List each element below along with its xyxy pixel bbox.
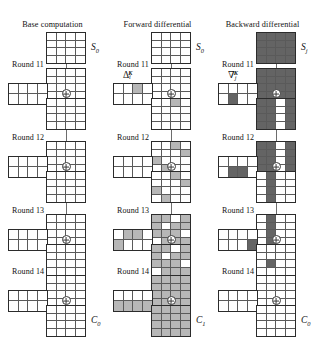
grid-cell — [38, 230, 48, 240]
grid-cell — [152, 291, 162, 299]
grid-cell — [124, 157, 134, 167]
grid-cell — [267, 142, 277, 150]
grid-cell — [257, 41, 267, 49]
grid-cell — [267, 33, 277, 41]
round-state-out-base-0 — [46, 98, 86, 130]
grid-cell — [257, 172, 267, 180]
grid-cell — [57, 245, 67, 253]
round-state-out-forward-0 — [151, 98, 191, 130]
round-key-grid-forward-3 — [113, 290, 153, 312]
grid-cell — [19, 94, 29, 104]
grid-cell — [133, 240, 143, 250]
grid-cell — [276, 69, 286, 77]
grid-cell — [76, 142, 86, 150]
xor-node-base-3 — [62, 296, 71, 305]
round-label-backward-0: Round 11 — [222, 60, 254, 69]
grid-cell — [267, 122, 277, 130]
grid-cell — [257, 314, 267, 322]
grid-cell — [76, 69, 86, 77]
grid-cell — [257, 107, 267, 115]
column-backward: Backward differentialSjRound 11∇jKRound … — [210, 0, 315, 339]
grid-cell — [76, 230, 86, 238]
grid-cell — [267, 114, 277, 122]
bottom-state-label-base: C0 — [91, 315, 101, 327]
grid-cell — [257, 180, 267, 188]
grid-cell — [47, 291, 57, 299]
grid-cell — [238, 94, 248, 104]
grid-cell — [143, 230, 153, 240]
grid-cell — [171, 223, 181, 231]
grid-cell — [238, 230, 248, 240]
grid-cell — [152, 329, 162, 337]
column-title-backward: Backward differential — [210, 20, 315, 29]
grid-cell — [267, 268, 277, 276]
grid-cell — [143, 291, 153, 301]
grid-cell — [28, 240, 38, 250]
round-label-backward-2: Round 13 — [222, 206, 254, 215]
grid-cell — [47, 284, 57, 292]
grid-cell — [162, 180, 172, 188]
grid-cell — [76, 172, 86, 180]
grid-cell — [76, 253, 86, 261]
grid-cell — [114, 291, 124, 301]
grid-cell — [219, 301, 229, 311]
round-state-out-forward-2 — [151, 244, 191, 276]
grid-cell — [276, 321, 286, 329]
grid-cell — [66, 314, 76, 322]
grid-cell — [267, 215, 277, 223]
grid-cell — [267, 306, 277, 314]
grid-cell — [276, 195, 286, 203]
grid-cell — [47, 84, 57, 92]
grid-cell — [47, 56, 57, 64]
grid-cell — [181, 41, 191, 49]
xor-node-base-0 — [62, 89, 71, 98]
grid-cell — [257, 84, 267, 92]
grid-cell — [181, 230, 191, 238]
top-state-label-backward: Sj — [301, 42, 308, 54]
grid-cell — [229, 157, 239, 167]
column-title-forward: Forward differential — [105, 20, 210, 29]
grid-cell — [66, 306, 76, 314]
grid-cell — [286, 33, 296, 41]
grid-cell — [19, 230, 29, 240]
grid-cell — [152, 180, 162, 188]
round-key-grid-backward-3 — [218, 290, 258, 312]
grid-cell — [276, 56, 286, 64]
grid-cell — [267, 245, 277, 253]
grid-cell — [76, 56, 86, 64]
grid-cell — [257, 260, 267, 268]
grid-cell — [171, 195, 181, 203]
grid-cell — [152, 122, 162, 130]
grid-cell — [276, 180, 286, 188]
grid-cell — [133, 94, 143, 104]
grid-cell — [162, 114, 172, 122]
grid-cell — [219, 94, 229, 104]
grid-cell — [162, 41, 172, 49]
grid-cell — [47, 253, 57, 261]
grid-cell — [229, 230, 239, 240]
xor-node-base-1 — [62, 162, 71, 171]
grid-cell — [133, 84, 143, 94]
grid-cell — [181, 77, 191, 85]
grid-cell — [171, 329, 181, 337]
grid-cell — [152, 268, 162, 276]
grid-cell — [19, 291, 29, 301]
grid-cell — [57, 314, 67, 322]
round-label-forward-3: Round 14 — [117, 267, 149, 276]
grid-cell — [28, 94, 38, 104]
grid-cell — [171, 48, 181, 56]
round-state-out-backward-0 — [256, 98, 296, 130]
grid-cell — [181, 284, 191, 292]
grid-cell — [238, 291, 248, 301]
grid-cell — [28, 84, 38, 94]
grid-cell — [76, 150, 86, 158]
grid-cell — [47, 314, 57, 322]
grid-cell — [76, 291, 86, 299]
grid-cell — [28, 157, 38, 167]
grid-cell — [57, 215, 67, 223]
grid-cell — [57, 284, 67, 292]
grid-cell — [181, 195, 191, 203]
grid-cell — [47, 114, 57, 122]
grid-cell — [57, 321, 67, 329]
grid-cell — [47, 107, 57, 115]
